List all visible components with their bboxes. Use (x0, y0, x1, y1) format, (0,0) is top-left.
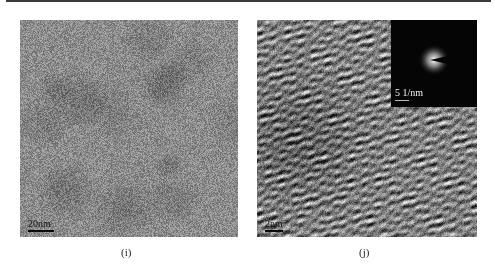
inset-scale-bar: 5 1/nm (395, 88, 423, 101)
caption-j: (j) (359, 246, 369, 258)
inset-scale-bar-line (395, 100, 409, 101)
scale-bar-j-label: 2nm (265, 219, 283, 229)
scale-bar-j: 2nm (265, 219, 283, 232)
scale-bar-i-label: 20nm (28, 219, 54, 229)
saed-inset: 5 1/nm (391, 20, 477, 107)
inset-scale-bar-label: 5 1/nm (395, 88, 423, 98)
scale-bar-i-line (28, 230, 54, 232)
scale-bar-i: 20nm (28, 219, 54, 232)
scale-bar-j-line (265, 230, 283, 232)
panel-i-tem-image: 20nm (20, 20, 238, 237)
tem-image-i (20, 20, 238, 237)
caption-i: (i) (121, 246, 131, 258)
top-rule (6, 0, 491, 2)
panel-j-hrtem-image: 2nm 5 1/nm (257, 20, 477, 237)
